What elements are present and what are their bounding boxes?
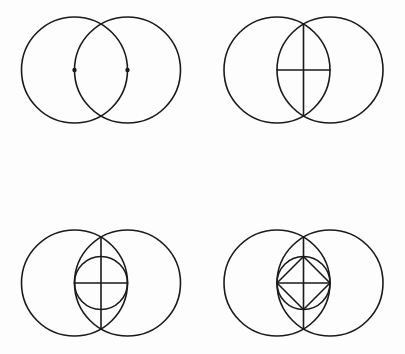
- figure-root: [0, 0, 405, 354]
- geometric-construction-figure: [0, 0, 405, 354]
- left-center-dot: [72, 68, 76, 72]
- two-overlapping-circles: [22, 17, 181, 123]
- vesica-with-inscribed-circle: [22, 230, 181, 336]
- vesica-with-inscribed-square: [224, 230, 383, 336]
- vesica-with-cross-axes: [224, 17, 383, 123]
- right-center-dot: [125, 68, 129, 72]
- panels-group: [22, 17, 384, 336]
